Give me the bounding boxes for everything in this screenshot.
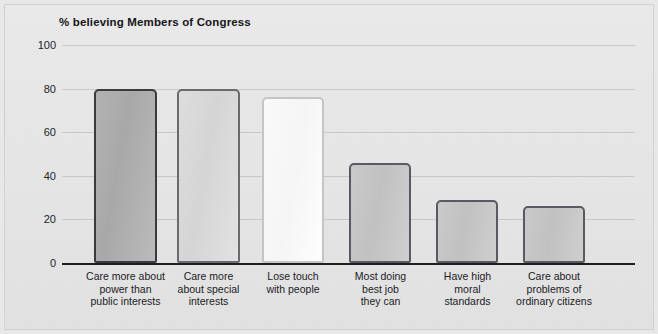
plot-area: 100 80 60 40 20 0 Care more about power … — [0, 0, 658, 334]
bar-care-about-problems-of-ordinary-citizens — [523, 206, 585, 263]
bar-most-doing-best-job — [349, 163, 411, 263]
bar-care-more-about-special-interests — [177, 89, 240, 263]
y-tick-label-20: 20 — [22, 214, 56, 225]
y-tick-label-80: 80 — [22, 84, 56, 95]
y-tick-label-100: 100 — [22, 40, 56, 51]
bar-have-high-moral-standards — [436, 200, 498, 263]
x-tick-label-6: Care about problems of ordinary citizens — [495, 270, 613, 308]
bar-lose-touch-with-people — [262, 97, 324, 263]
y-tick-label-0: 0 — [22, 258, 56, 269]
gridline-100 — [62, 45, 635, 46]
chart-figure: % believing Members of Congress 100 80 6… — [0, 0, 658, 334]
y-tick-label-60: 60 — [22, 127, 56, 138]
x-axis-baseline — [62, 263, 635, 265]
bar-care-more-about-power — [94, 89, 157, 263]
y-tick-label-40: 40 — [22, 171, 56, 182]
